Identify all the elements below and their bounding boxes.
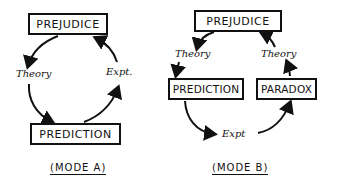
arrow-expt-to-paradox bbox=[258, 103, 290, 133]
mode-a-prejudice-label: PREJUDICE bbox=[36, 18, 99, 31]
mode-b-theory-right-label: Theory bbox=[261, 48, 296, 59]
mode-b-theory-left-label: Theory bbox=[175, 48, 210, 59]
mode-b-caption: (MODE B) bbox=[212, 162, 268, 175]
mode-a-prejudice-box: PREJUDICE bbox=[28, 13, 108, 35]
mode-b-prejudice-box: PREJUDICE bbox=[194, 10, 282, 32]
arrow-theory-to-prediction bbox=[29, 84, 52, 122]
mode-b-prejudice-label: PREJUDICE bbox=[206, 15, 269, 28]
arrow-prediction-to-expt-b bbox=[185, 101, 214, 134]
mode-a-expt-label: Expt. bbox=[106, 66, 133, 77]
mode-a-prediction-box: PREDICTION bbox=[30, 123, 121, 145]
mode-a-theory-label: Theory bbox=[16, 68, 51, 79]
mode-b-paradox-box: PARADOX bbox=[256, 78, 317, 100]
mode-b-prediction-label: PREDICTION bbox=[173, 83, 239, 95]
mode-a-prediction-label: PREDICTION bbox=[39, 128, 111, 141]
arrow-prediction-to-expt bbox=[84, 88, 118, 122]
arrow-paradox-to-theory bbox=[287, 62, 290, 76]
arrow-theory-right-to-prejudice bbox=[262, 33, 275, 47]
arrow-prejudice-to-theory-left bbox=[197, 32, 214, 48]
mode-b-expt-label: Expt bbox=[222, 128, 245, 139]
mode-a-caption: (MODE A) bbox=[50, 162, 106, 175]
mode-b-paradox-label: PARADOX bbox=[261, 83, 312, 95]
mode-b-prediction-box: PREDICTION bbox=[168, 78, 244, 100]
arrow-expt-to-prejudice bbox=[96, 38, 117, 62]
arrow-prejudice-to-theory bbox=[28, 36, 58, 66]
arrow-theory-to-prediction-b bbox=[176, 62, 179, 75]
